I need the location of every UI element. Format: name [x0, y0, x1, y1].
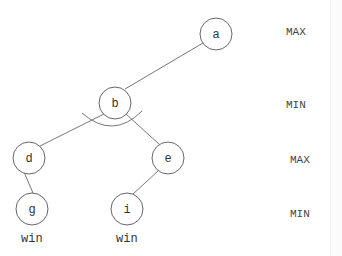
node-label: d [25, 152, 32, 166]
edge-a-b [125, 43, 203, 89]
node-label: b [111, 97, 118, 111]
level-label-min: MIN [290, 208, 310, 220]
node-label: i [123, 203, 130, 217]
edge-d-g [24, 172, 33, 193]
node-label: e [164, 152, 171, 166]
level-label-max: MAX [286, 26, 306, 38]
leaf-value-i: win [116, 232, 138, 246]
level-label-max: MAX [290, 154, 310, 166]
node-label: g [28, 203, 35, 217]
edge-b-d [40, 114, 104, 146]
game-tree-diagram: a b d e g i MAX MIN MAX MIN win win [0, 0, 342, 256]
edge-b-e [126, 114, 160, 145]
level-label-min: MIN [286, 99, 306, 111]
node-label: a [212, 28, 219, 42]
leaf-value-g: win [21, 232, 43, 246]
edge-e-i [133, 171, 158, 194]
